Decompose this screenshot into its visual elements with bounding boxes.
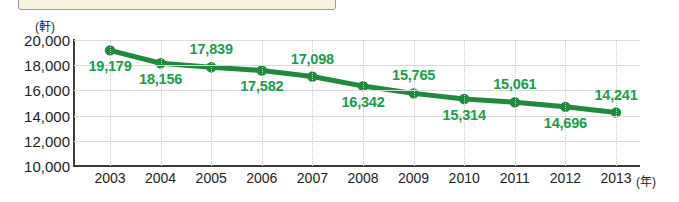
- data-point-label: 17,098: [291, 51, 334, 67]
- x-axis-tick-label: 2012: [550, 170, 581, 186]
- x-axis-tick-label: 2011: [500, 170, 530, 186]
- x-axis-tick-label: 2004: [145, 170, 176, 186]
- gridline-vertical: [464, 40, 466, 166]
- y-axis-tick-labels: 10,00012,00014,00016,00018,00020,000: [0, 40, 70, 166]
- x-axis-tick-label: 2009: [398, 170, 429, 186]
- data-point-label: 17,839: [190, 41, 233, 57]
- data-point-label: 15,061: [493, 76, 536, 92]
- x-axis-tick-label: 2005: [196, 170, 227, 186]
- gridline-vertical: [161, 40, 163, 166]
- line-chart: (軒) (年) 10,00012,00014,00016,00018,00020…: [0, 0, 679, 202]
- y-axis-tick-label: 10,000: [24, 158, 70, 175]
- y-axis-tick-label: 14,000: [24, 107, 70, 124]
- data-point-label: 17,582: [240, 78, 283, 94]
- data-point-label: 14,696: [544, 115, 587, 131]
- y-axis-tick-label: 18,000: [24, 57, 70, 74]
- gridline-vertical: [565, 40, 567, 166]
- x-axis-tick-label: 2003: [94, 170, 125, 186]
- y-axis-tick-label: 12,000: [24, 132, 70, 149]
- x-axis-tick-label: 2006: [246, 170, 277, 186]
- gridline-vertical: [414, 40, 416, 166]
- data-point-label: 18,156: [139, 71, 182, 87]
- x-axis-tick-label: 2008: [347, 170, 378, 186]
- gridline-horizontal: [74, 90, 640, 91]
- gridline-vertical: [262, 40, 264, 166]
- gridline-horizontal: [74, 65, 640, 66]
- x-axis-tick-label: 2007: [297, 170, 328, 186]
- data-point-label: 19,179: [88, 58, 131, 74]
- gridline-vertical: [616, 40, 618, 166]
- gridline-vertical: [211, 40, 213, 166]
- y-axis-tick-label: 20,000: [24, 32, 70, 49]
- x-axis-unit-label: (年): [636, 172, 656, 189]
- data-point-label: 14,241: [594, 87, 637, 103]
- data-point-label: 15,765: [392, 67, 435, 83]
- x-axis-tick-label: 2013: [600, 170, 631, 186]
- gridline-horizontal: [74, 141, 640, 142]
- gridline-vertical: [515, 40, 517, 166]
- y-axis-tick-label: 16,000: [24, 82, 70, 99]
- x-axis-tick-label: 2010: [449, 170, 480, 186]
- data-point-label: 16,342: [341, 94, 384, 110]
- data-point-label: 15,314: [443, 107, 486, 123]
- gridline-horizontal: [74, 40, 640, 41]
- cream-banner-strip: [18, 0, 336, 10]
